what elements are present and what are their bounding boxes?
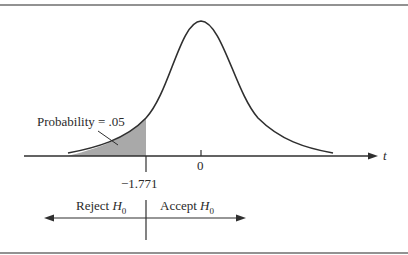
critical-value-label: −1.771 bbox=[121, 176, 158, 192]
zero-label: 0 bbox=[197, 158, 204, 174]
axis-arrowhead-icon bbox=[368, 153, 378, 160]
t-axis-label: t bbox=[383, 148, 387, 164]
left-arrowhead-icon bbox=[44, 215, 54, 222]
h-subscript: 0 bbox=[122, 206, 127, 216]
reject-text: Reject bbox=[76, 198, 112, 213]
density-curve bbox=[68, 21, 333, 153]
h-subscript: 0 bbox=[209, 206, 214, 216]
right-arrowhead-icon bbox=[236, 215, 246, 222]
t-distribution-figure: Probability = .05 −1.771 0 t Reject H0 A… bbox=[0, 0, 408, 255]
probability-label: Probability = .05 bbox=[37, 114, 125, 130]
accept-text: Accept bbox=[160, 198, 200, 213]
accept-h0-label: Accept H0 bbox=[160, 198, 214, 216]
reject-h0-label: Reject H0 bbox=[76, 198, 126, 216]
h-symbol: H bbox=[112, 198, 121, 213]
